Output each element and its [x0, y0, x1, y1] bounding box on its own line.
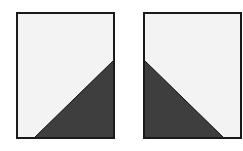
- diagram-canvas: [0, 0, 243, 151]
- right-panel: [144, 13, 241, 138]
- left-panel: [17, 13, 114, 138]
